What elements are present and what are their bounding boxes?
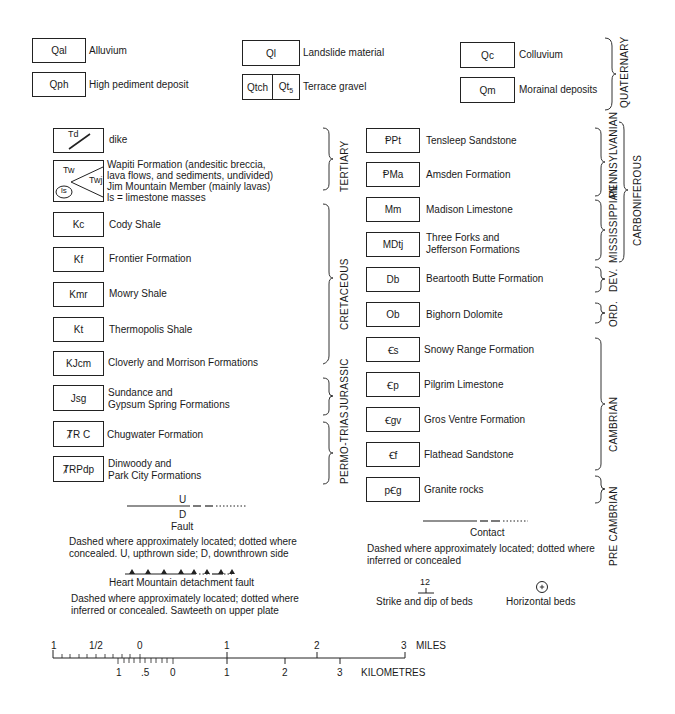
- unit-code: Ꞓs: [388, 343, 399, 357]
- period-quaternary: QUATERNARY: [619, 36, 630, 108]
- period-devonian: DEV.: [608, 268, 619, 292]
- unit-code: ⱣMa: [383, 169, 404, 180]
- unit-box-pt: ⱣPt: [366, 128, 420, 153]
- unit-box-kf: Kf: [53, 247, 104, 272]
- unit-code: Qal: [51, 45, 67, 56]
- fault-desc-1: Dashed where approximately located; dott…: [69, 536, 297, 548]
- miles-tick-half: 1/2: [89, 640, 103, 651]
- period-cambrian: CAMBRIAN: [608, 397, 619, 452]
- unit-name: Mowry Shale: [109, 288, 167, 300]
- unit-desc-4: ls = limestone masses: [107, 192, 206, 204]
- unit-code: ȾR C: [67, 429, 90, 440]
- unit-box-qm: Qm: [460, 77, 515, 103]
- unit-name: Tensleep Sandstone: [426, 135, 517, 147]
- unit-box-mm: Mm: [366, 197, 420, 222]
- miles-tick-0: 0: [137, 640, 143, 651]
- unit-code: Kc: [73, 219, 85, 230]
- unit-box-qtch: Qtch: [242, 74, 273, 100]
- km-tick-3: 3: [337, 667, 343, 678]
- miles-tick-3: 3: [401, 640, 407, 651]
- strike-dip-icon: [416, 587, 436, 595]
- miles-tick-1: 1: [224, 640, 230, 651]
- contact-title: Contact: [470, 527, 504, 539]
- unit-code: Ꞓf: [389, 448, 398, 462]
- unit-box-qt5: Qt5: [272, 74, 300, 100]
- sawtooth-fault-icon: [124, 565, 246, 577]
- unit-desc-1: Dinwoody and: [108, 458, 171, 470]
- unit-code: Jsg: [71, 393, 87, 404]
- unit-box-trpdp: ȾRPdp: [53, 456, 104, 482]
- unit-code: Ql: [266, 48, 276, 59]
- miles-tick-1-left: 1: [51, 640, 57, 651]
- fault-downthrown-label: D: [179, 509, 186, 521]
- unit-box-ql: Ql: [242, 40, 300, 66]
- period-jurassic: JURASSIC: [339, 358, 350, 410]
- fault-desc-2: concealed. U, upthrown side; D, downthro…: [69, 548, 289, 560]
- unit-box-pma: ⱣMa: [366, 162, 420, 187]
- horizontal-beds-icon: [535, 580, 549, 594]
- km-tick-1-left: 1: [116, 667, 122, 678]
- miles-label: MILES: [416, 640, 446, 651]
- unit-box-mdtj: MDtj: [366, 232, 420, 257]
- unit-code-ls: ls: [61, 186, 67, 195]
- unit-code: Qtch: [247, 82, 268, 93]
- unit-desc-2: Jefferson Formations: [426, 244, 520, 256]
- period-permo-trias: PERMO-TRIAS: [339, 411, 350, 484]
- unit-code: Qm: [479, 85, 495, 96]
- unit-name: Frontier Formation: [109, 253, 191, 265]
- brace-quaternary: [604, 36, 618, 112]
- unit-box-wapiti: Tw Twj ls: [53, 160, 104, 202]
- unit-code: Db: [387, 274, 400, 285]
- fault-line-icon: [125, 496, 250, 516]
- unit-name: dike: [109, 134, 127, 146]
- unit-box-kjcm: KJcm: [53, 351, 104, 376]
- fault-title: Fault: [171, 521, 193, 533]
- unit-code: Ob: [386, 309, 399, 320]
- period-mississippian: MISSISSIPPIAN: [608, 186, 619, 263]
- unit-code-twj: Twj: [89, 175, 103, 185]
- unit-box-db: Db: [366, 267, 420, 292]
- contact-line-icon: [422, 517, 547, 525]
- unit-code: Qph: [50, 79, 69, 90]
- unit-box-trc: ȾR C: [53, 421, 104, 447]
- unit-box-cgv: Ꞓgv: [366, 407, 420, 432]
- unit-code: MDtj: [383, 239, 404, 250]
- unit-name: Gros Ventre Formation: [424, 414, 525, 426]
- unit-code: pꞒg: [384, 483, 401, 497]
- km-tick-0: 0: [170, 667, 176, 678]
- unit-name: Flathead Sandstone: [424, 449, 514, 461]
- unit-code: Mm: [385, 204, 402, 215]
- unit-code: KJcm: [66, 358, 91, 369]
- horizontal-beds-title: Horizontal beds: [506, 596, 575, 608]
- unit-code: Kmr: [69, 289, 87, 300]
- period-cretaceous: CRETACEOUS: [339, 258, 350, 330]
- unit-box-td: Td: [53, 128, 104, 153]
- unit-name: Thermopolis Shale: [109, 324, 192, 336]
- fault-upthrown-label: U: [179, 494, 186, 506]
- dike-line-icon: [54, 129, 104, 153]
- unit-box-kc: Kc: [53, 212, 104, 237]
- unit-box-kt: Kt: [53, 317, 104, 342]
- unit-name: Snowy Range Formation: [424, 344, 534, 356]
- unit-code: ȾRPdp: [63, 464, 94, 475]
- unit-name: Amsden Formation: [426, 169, 510, 181]
- unit-desc-2: Gypsum Spring Formations: [108, 399, 230, 411]
- unit-name: Pilgrim Limestone: [424, 379, 503, 391]
- unit-box-kmr: Kmr: [53, 282, 104, 307]
- unit-name: Landslide material: [303, 47, 384, 59]
- km-tick-1: 1: [224, 667, 230, 678]
- brace-carboniferous: [617, 118, 631, 268]
- detachment-title: Heart Mountain detachment fault: [109, 577, 254, 589]
- unit-box-qph: Qph: [32, 72, 86, 97]
- left-period-braces-lower: [322, 368, 336, 498]
- unit-code: Kf: [74, 254, 83, 265]
- unit-name: Cody Shale: [109, 219, 161, 231]
- unit-box-cf: Ꞓf: [366, 442, 420, 467]
- km-tick-half: .5: [141, 667, 149, 678]
- unit-code: Ꞓgv: [385, 413, 402, 427]
- unit-name: Madison Limestone: [426, 204, 513, 216]
- unit-name: Alluvium: [89, 45, 127, 57]
- unit-code-tw: Tw: [63, 165, 75, 175]
- unit-name: Terrace gravel: [303, 81, 366, 93]
- unit-code: Kt: [74, 324, 83, 335]
